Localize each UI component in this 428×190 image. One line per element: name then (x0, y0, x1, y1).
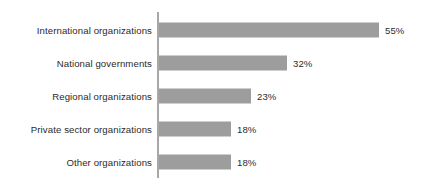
bar[interactable] (159, 154, 231, 169)
value-label: 32% (293, 57, 313, 68)
category-label: National governments (57, 57, 152, 68)
bar-chart: International organizations 55% National… (0, 0, 428, 190)
bar-row: National governments 32% (0, 47, 428, 78)
bar-row: Other organizations 18% (0, 146, 428, 177)
bar-group: 32% (159, 55, 313, 70)
category-label: Other organizations (66, 156, 152, 167)
plot-area: International organizations 55% National… (0, 0, 428, 190)
bar[interactable] (159, 55, 287, 70)
category-label: Private sector organizations (31, 123, 152, 134)
bar-group: 18% (159, 154, 257, 169)
bar-group: 18% (159, 121, 257, 136)
value-label: 23% (257, 90, 277, 101)
value-label: 55% (385, 24, 405, 35)
value-label: 18% (237, 123, 257, 134)
bar-row: Regional organizations 23% (0, 80, 428, 111)
bar-group: 55% (159, 22, 405, 37)
bar-group: 23% (159, 88, 277, 103)
category-label: International organizations (37, 24, 152, 35)
category-label: Regional organizations (52, 90, 152, 101)
value-label: 18% (237, 156, 257, 167)
bar[interactable] (159, 88, 251, 103)
bar-row: Private sector organizations 18% (0, 113, 428, 144)
bar[interactable] (159, 22, 379, 37)
bar-row: International organizations 55% (0, 14, 428, 45)
bar[interactable] (159, 121, 231, 136)
